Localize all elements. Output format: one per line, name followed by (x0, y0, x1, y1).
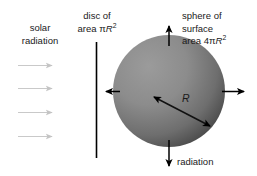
disc-area-exponent: 2 (113, 21, 117, 28)
sphere-area-line3: area 4πR2 (182, 35, 254, 48)
sphere-area-prefix: area 4 (182, 35, 209, 46)
incoming-solar-rays (18, 66, 52, 137)
sphere-area-exponent: 2 (222, 34, 226, 41)
disc-area-prefix: area (78, 23, 100, 34)
disc-area-line2: area πR2 (66, 23, 128, 36)
disc-area-variable: R (106, 23, 113, 34)
sphere-area-line1: sphere of (182, 10, 254, 23)
solar-radiation-line2: radiation (9, 35, 71, 48)
sphere-area-line2: surface (182, 23, 254, 36)
outgoing-radiation-label: radiation (177, 156, 213, 169)
sphere-area-label: sphere of surface area 4πR2 (182, 10, 254, 48)
solar-radiation-label: solar radiation (9, 22, 71, 47)
disc-area-label: disc of area πR2 (66, 10, 128, 35)
solar-radiation-line1: solar (9, 22, 71, 35)
disc-area-line1: disc of (66, 10, 128, 23)
energy-balance-diagram: solar radiation disc of area πR2 sphere … (0, 0, 257, 176)
sphere-body (113, 35, 225, 147)
radius-label: R (182, 92, 190, 105)
